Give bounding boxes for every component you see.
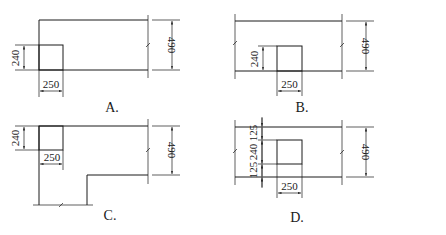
dim-label-240: 240 bbox=[9, 49, 21, 66]
dim-label-240: 240 bbox=[247, 143, 259, 160]
column-hatched bbox=[277, 46, 302, 71]
panel-b: 490 240 250 B. bbox=[233, 14, 374, 115]
dim-label-250: 250 bbox=[281, 180, 298, 192]
dim-label-240: 240 bbox=[9, 129, 21, 146]
dim-label-125-bottom: 125 bbox=[247, 161, 259, 178]
panel-a: 490 240 250 A. bbox=[9, 15, 180, 115]
panel-label-d: D. bbox=[290, 210, 304, 225]
dim-label-250: 250 bbox=[44, 151, 61, 163]
dim-label-250: 250 bbox=[281, 78, 298, 90]
dim-label-240: 240 bbox=[248, 50, 260, 67]
dim-label-490: 490 bbox=[360, 144, 372, 161]
panel-label-a: A. bbox=[105, 100, 119, 115]
panel-c: 490 240 250 C. bbox=[9, 119, 180, 223]
column-hatched bbox=[39, 45, 63, 70]
dim-label-490: 490 bbox=[166, 37, 178, 54]
column-hatched bbox=[39, 126, 63, 150]
column-hatched bbox=[277, 140, 302, 164]
dim-label-125-top: 125 bbox=[247, 124, 259, 141]
panel-d: 490 125 240 125 250 D. bbox=[233, 117, 374, 225]
dim-label-490: 490 bbox=[360, 38, 372, 55]
wall-column-diagrams: 490 240 250 A. 490 240 250 B. bbox=[0, 0, 446, 235]
dim-label-490: 490 bbox=[166, 142, 178, 159]
dim-label-250: 250 bbox=[43, 78, 60, 90]
panel-label-c: C. bbox=[104, 208, 117, 223]
panel-label-b: B. bbox=[296, 100, 309, 115]
